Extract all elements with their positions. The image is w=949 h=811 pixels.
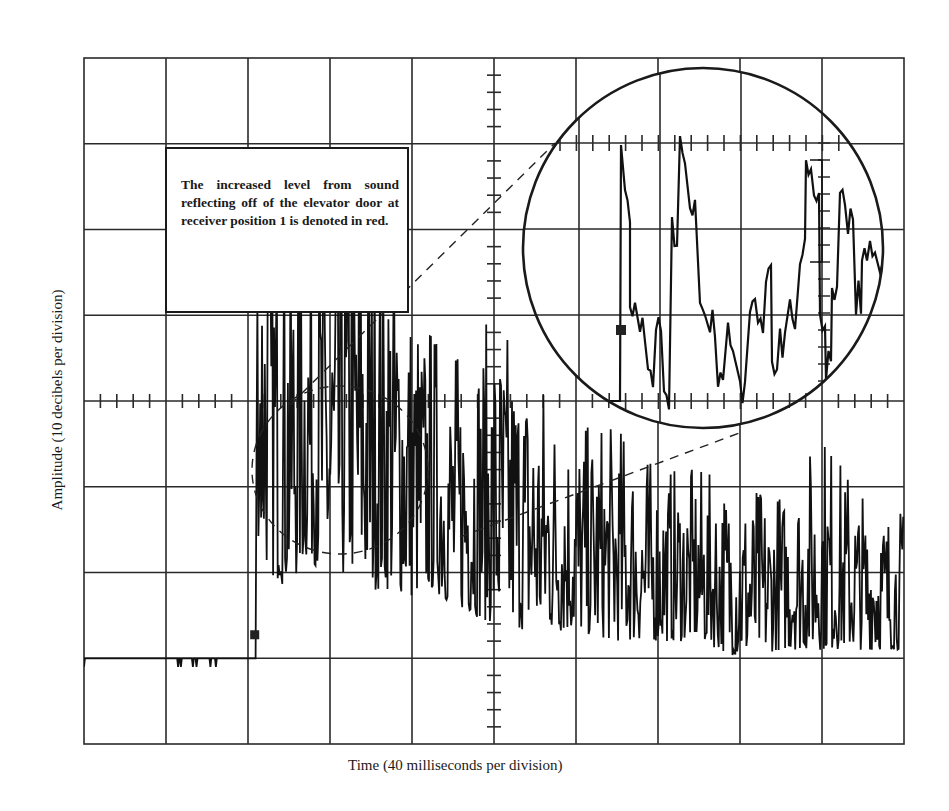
- annotation-box: The increased level from sound reflectin…: [165, 147, 409, 313]
- annotation-text: The increased level from sound reflectin…: [181, 176, 399, 231]
- x-axis-label: Time (40 milliseconds per division): [348, 757, 562, 774]
- oscilloscope-chart: [0, 0, 949, 811]
- magnifier-inset-background: [523, 68, 883, 428]
- y-axis-label: Amplitude (10 decibels per division): [49, 290, 66, 511]
